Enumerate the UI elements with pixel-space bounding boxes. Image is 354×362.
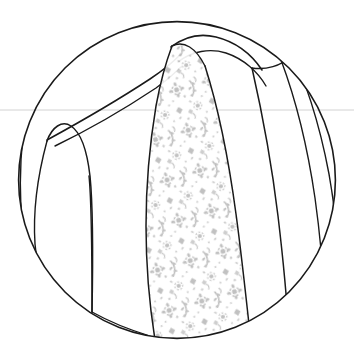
garment-illustration-svg: [0, 0, 354, 362]
left-hem-line: [92, 312, 150, 336]
cropped-drawing-group: [20, 35, 338, 352]
damask-floral-panel-fill: [146, 45, 252, 352]
right-side-panel-seam: [281, 60, 324, 296]
left-armhole-seam: [47, 124, 93, 312]
left-sleeve-outer-seam: [20, 86, 44, 298]
center-right-panel-seam: [252, 68, 289, 336]
illustration-canvas: Circular cropped line drawing of a garme…: [0, 0, 354, 362]
